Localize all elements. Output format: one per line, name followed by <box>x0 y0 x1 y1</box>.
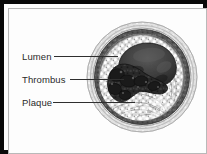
label-plaque: Plaque <box>22 98 52 108</box>
leader-line-thrombus <box>70 79 124 80</box>
label-thrombus: Thrombus <box>22 75 66 85</box>
figure-inner-border: Lumen Thrombus Plaque <box>8 8 207 154</box>
leader-line-plaque <box>53 102 135 103</box>
leader-line-lumen <box>54 56 118 57</box>
label-lumen: Lumen <box>22 52 52 62</box>
figure-frame: Lumen Thrombus Plaque <box>0 0 207 154</box>
